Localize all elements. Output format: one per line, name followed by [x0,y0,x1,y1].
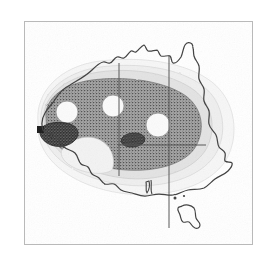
australia-distribution-map [0,0,266,260]
paper-grain-overlay [25,22,252,244]
figure-container: Distribution map of Australia [0,0,266,260]
